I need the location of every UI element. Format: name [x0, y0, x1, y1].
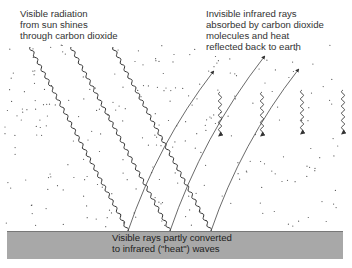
reflected-heat-arrows — [219, 90, 345, 135]
carbon-dioxide-molecules — [4, 45, 338, 228]
incoming-visible-rays — [30, 47, 212, 231]
outgoing-infrared-rays — [128, 57, 298, 231]
greenhouse-diagram — [0, 0, 352, 268]
